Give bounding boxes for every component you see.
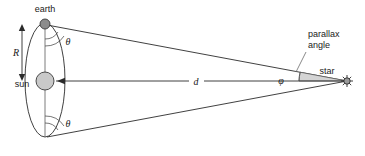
theta-bottom-label: θ <box>66 118 71 129</box>
distance-label: d <box>194 76 200 87</box>
theta-bottom-arc-inner <box>45 123 58 130</box>
phi-label: φ <box>278 75 284 86</box>
parallax-angle-label-line2: angle <box>308 40 330 50</box>
theta-top-arc <box>45 36 64 46</box>
star-label: star <box>319 66 334 76</box>
theta-top-label: θ <box>66 36 71 47</box>
orbit-radius-label: R <box>12 47 19 58</box>
sight-line-earth-bottom-to-star <box>47 81 347 137</box>
parallax-diagram: earth sun star parallax angle R d θ θ φ <box>0 0 365 156</box>
orbit-radius-arrow <box>19 24 25 81</box>
theta-bottom-arc <box>45 116 64 126</box>
parallax-angle-label-line1: parallax <box>308 29 340 39</box>
distance-line-arrowhead <box>57 78 65 84</box>
star-glyph <box>341 75 353 87</box>
earth-label: earth <box>35 4 56 14</box>
sun-circle <box>36 72 54 90</box>
sun-label: sun <box>15 79 30 89</box>
earth-dot <box>40 19 50 29</box>
parallax-angle-leader-line <box>296 52 306 72</box>
parallax-diagram-canvas: earth sun star parallax angle R d θ θ φ <box>0 0 365 156</box>
